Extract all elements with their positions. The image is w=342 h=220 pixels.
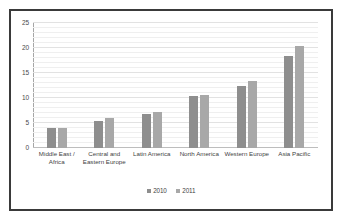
y-tick-label: 20 [22, 44, 29, 51]
y-tick-label: 5 [25, 119, 29, 126]
legend-swatch-icon [147, 189, 151, 193]
bar-group [271, 22, 319, 148]
bar [58, 128, 67, 148]
bar-group [223, 22, 271, 148]
bar-group [81, 22, 129, 148]
bar [284, 56, 293, 148]
legend-label: 2011 [182, 187, 195, 194]
bar [248, 81, 257, 149]
y-tick-label: 15 [22, 69, 29, 76]
category-label: Asia Pacific [271, 150, 319, 167]
legend-item[interactable]: 2011 [176, 187, 196, 194]
bar [142, 114, 151, 148]
category-label: Central and Eastern Europe [81, 150, 129, 167]
bar [94, 121, 103, 148]
bar [47, 128, 56, 148]
chart-frame: 0510152025 Middle East / AfricaCentral a… [9, 9, 333, 211]
bar-group [33, 22, 81, 148]
bar [237, 86, 246, 149]
x-axis-category-labels: Middle East / AfricaCentral and Eastern … [33, 150, 318, 167]
bar [153, 112, 162, 149]
bar-groups [33, 22, 318, 148]
y-tick-label: 25 [22, 19, 29, 26]
bar [200, 95, 209, 149]
bar-group [176, 22, 224, 148]
legend-label: 2010 [153, 187, 167, 194]
category-label: Western Europe [223, 150, 271, 167]
bar [189, 96, 198, 148]
bar [105, 118, 114, 148]
legend-swatch-icon [176, 189, 180, 193]
category-label: Latin America [128, 150, 176, 167]
chart-legend: 20102011 [11, 187, 331, 194]
chart-canvas: 0510152025 Middle East / AfricaCentral a… [11, 11, 331, 209]
bar [295, 46, 304, 149]
y-tick-label: 10 [22, 94, 29, 101]
y-tick-label: 0 [25, 144, 29, 151]
legend-item[interactable]: 2010 [147, 187, 167, 194]
bar-group [128, 22, 176, 148]
category-label: North America [176, 150, 224, 167]
category-label: Middle East / Africa [33, 150, 81, 167]
